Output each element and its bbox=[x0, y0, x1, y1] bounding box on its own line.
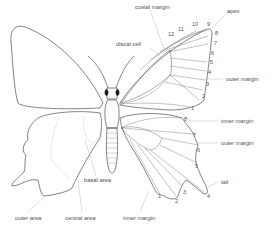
label-outer-area: outer area bbox=[15, 215, 41, 221]
label-outer-margin-forewing: outer margin bbox=[226, 76, 258, 82]
label-central-area: central area bbox=[65, 215, 96, 221]
thorax bbox=[105, 100, 119, 128]
hindwing-vein-4: 4 bbox=[207, 194, 210, 200]
head bbox=[107, 88, 117, 99]
butterfly-diagram: costal margin apex discal cell outer mar… bbox=[0, 0, 273, 232]
forewing-vein-4: 4 bbox=[208, 70, 211, 76]
label-discal-cell: discal cell bbox=[116, 41, 141, 47]
forewing-vein-8: 8 bbox=[215, 31, 218, 37]
forewing-vein-10: 10 bbox=[192, 22, 198, 28]
forewing-vein-5: 5 bbox=[210, 60, 213, 66]
hindwing-vein-7: 7 bbox=[193, 133, 196, 139]
butterfly-illustration bbox=[0, 0, 273, 232]
forewing-vein-12: 12 bbox=[168, 32, 174, 38]
hindwing-vein-6: 6 bbox=[197, 148, 200, 154]
hindwing-vein-1: 1 bbox=[158, 194, 161, 200]
label-apex: apex bbox=[227, 8, 240, 14]
label-inner-margin-hindwing: inner margin bbox=[123, 215, 155, 221]
hindwing-vein-8: 8 bbox=[184, 117, 187, 123]
left-forewing bbox=[11, 26, 103, 109]
discal-cell bbox=[121, 50, 172, 103]
forewing-vein-3: 3 bbox=[206, 82, 209, 88]
forewing-vein-9: 9 bbox=[207, 22, 210, 28]
forewing-vein-7: 7 bbox=[214, 41, 217, 47]
label-basal-area: basal area bbox=[84, 177, 111, 183]
label-inner-margin-forewing: inner margin bbox=[221, 118, 253, 124]
right-hindwing bbox=[120, 114, 207, 200]
label-costal-margin: costal margin bbox=[135, 4, 169, 10]
hindwing-vein-2: 2 bbox=[175, 199, 178, 205]
right-antenna bbox=[116, 56, 134, 88]
label-tail: tail bbox=[221, 179, 228, 185]
abdomen bbox=[106, 128, 117, 173]
forewing-vein-2: 2 bbox=[202, 94, 205, 100]
label-outer-margin-hindwing: outer margin bbox=[221, 140, 253, 146]
forewing-vein-11: 11 bbox=[178, 27, 184, 33]
right-eye bbox=[116, 90, 119, 96]
forewing-vein-1: 1 bbox=[191, 106, 194, 112]
left-antenna bbox=[88, 56, 108, 88]
hindwing-vein-5: 5 bbox=[195, 164, 198, 170]
left-eye bbox=[105, 90, 108, 96]
forewing-vein-6: 6 bbox=[211, 51, 214, 57]
hindwing-vein-3: 3 bbox=[183, 190, 186, 196]
